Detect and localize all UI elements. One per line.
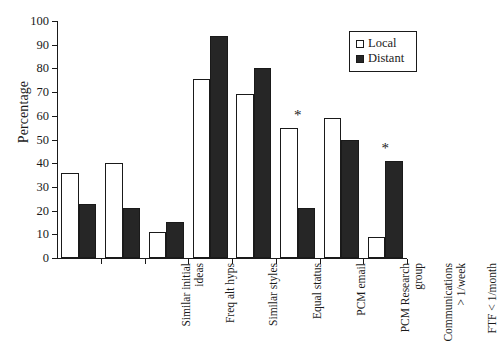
legend-label-local: Local [368, 36, 396, 51]
y-axis-tick-label: 90 [19, 39, 49, 52]
y-axis-line [57, 21, 58, 259]
y-axis-tick-label: 50 [19, 134, 49, 147]
x-axis-category-label: Similar styles [267, 263, 280, 356]
chart-legend: Local Distant [349, 31, 417, 72]
y-axis-tick [52, 211, 57, 212]
y-axis-tick-label: 60 [19, 110, 49, 123]
y-axis-tick [52, 21, 57, 22]
x-axis-tick [101, 259, 102, 264]
y-axis-tick-label: 0 [19, 252, 49, 265]
y-axis-tick-label: 10 [19, 228, 49, 241]
bar-distant [298, 208, 316, 258]
filled-square-swatch-icon [356, 55, 364, 63]
legend-item-distant: Distant [356, 51, 411, 66]
y-axis-tick [52, 45, 57, 46]
legend-label-distant: Distant [368, 51, 404, 66]
y-axis-tick-label: 80 [19, 62, 49, 75]
y-axis-tick [52, 187, 57, 188]
bar-local [280, 128, 298, 258]
bar-distant [210, 36, 228, 258]
bar-local [236, 94, 254, 258]
bar-distant [385, 161, 403, 258]
bar-local [105, 163, 123, 258]
x-axis-tick [145, 259, 146, 264]
x-axis-category-label: Communications > 1/week [442, 263, 467, 356]
x-axis-category-label: PCM Research group [399, 263, 424, 356]
y-axis-tick [52, 163, 57, 164]
bar-local [61, 173, 79, 258]
significance-asterisk: * [291, 108, 305, 123]
y-axis-tick-label: 100 [19, 15, 49, 28]
y-axis-tick [52, 258, 57, 259]
y-axis-tick-label: 20 [19, 205, 49, 218]
y-axis-tick [52, 140, 57, 141]
y-axis-tick-label: 30 [19, 181, 49, 194]
significance-asterisk: * [378, 141, 392, 156]
y-axis-tick [52, 68, 57, 69]
y-axis-tick [52, 92, 57, 93]
x-axis-category-label: FTF < 1/month [486, 263, 499, 356]
bar-local [149, 232, 167, 258]
bar-distant [254, 68, 272, 258]
y-axis-tick-label: 70 [19, 86, 49, 99]
y-axis-tick [52, 234, 57, 235]
x-axis-category-label: Freq alt hyps [224, 263, 237, 356]
y-axis-tick-label: 40 [19, 157, 49, 170]
bar-distant [123, 208, 141, 258]
x-axis-category-label: Similar initial ideas [180, 263, 205, 356]
legend-item-local: Local [356, 36, 411, 51]
bar-distant [79, 204, 97, 259]
bar-local [193, 79, 211, 258]
y-axis-tick [52, 116, 57, 117]
bar-distant [341, 140, 359, 259]
bar-local [324, 118, 342, 258]
x-axis-category-label: PCM email [355, 263, 368, 356]
bar-distant [166, 222, 184, 258]
x-axis-category-label: Equal status [311, 263, 324, 356]
open-square-swatch-icon [356, 40, 364, 48]
bar-local [368, 237, 386, 258]
